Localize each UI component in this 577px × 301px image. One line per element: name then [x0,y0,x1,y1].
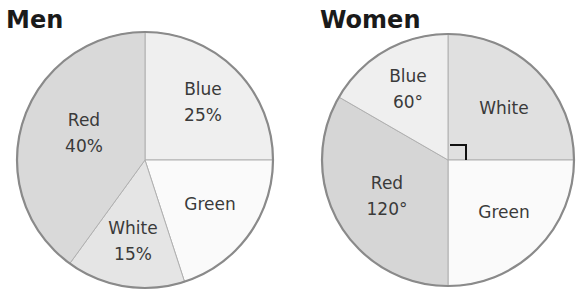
women-label-red-name: Red [371,173,403,193]
women-label-green-name: Green [478,202,529,222]
men-label-green-name: Green [184,194,235,214]
women-label-white-name: White [479,98,528,118]
women-label-blue-name: Blue [389,66,427,86]
men-label-white-value: 15% [114,244,152,264]
women-slice-green [448,160,574,286]
women-label-red-value: 120° [367,199,408,219]
men-pie-chart: Blue 25% Red 40% Green White 15% [17,32,273,288]
men-label-red-name: Red [68,110,100,130]
men-label-blue-name: Blue [184,79,222,99]
pie-charts: Blue 25% Red 40% Green White 15% Blue 60… [0,0,577,301]
men-label-red-value: 40% [65,136,103,156]
women-slice-white [448,34,574,160]
men-label-blue-value: 25% [184,105,222,125]
women-pie-chart: Blue 60° White Red 120° Green [322,34,574,286]
women-label-blue-value: 60° [393,92,423,112]
men-label-white-name: White [108,218,157,238]
